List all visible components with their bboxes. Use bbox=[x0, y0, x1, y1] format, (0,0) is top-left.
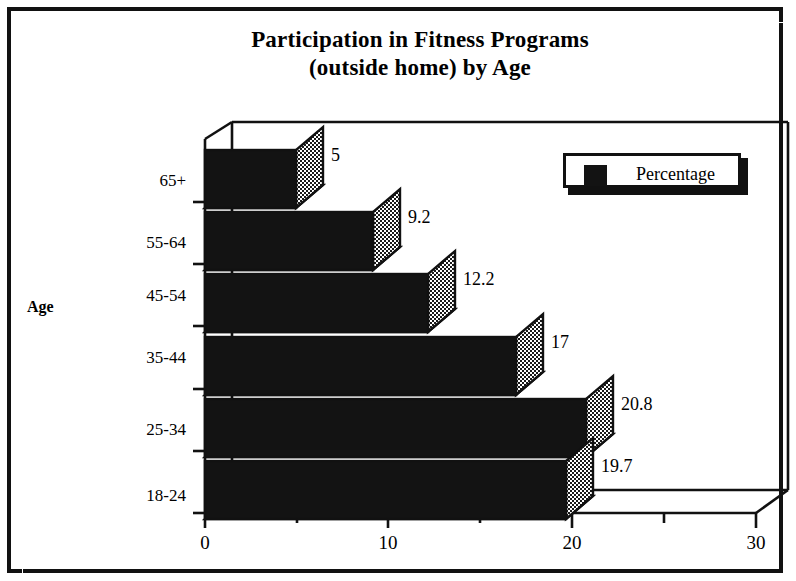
y-tick-label-55-64: 55-64 bbox=[100, 234, 186, 252]
chart-figure: Participation in Fitness Programs (outsi… bbox=[0, 0, 796, 581]
legend-swatch-percentage bbox=[584, 165, 607, 186]
x-tick-label-10: 10 bbox=[358, 533, 418, 553]
x-tick-label-30: 30 bbox=[726, 533, 786, 553]
x-tick-label-20: 20 bbox=[542, 533, 602, 553]
y-tick-label-25-34: 25-34 bbox=[100, 421, 186, 439]
x-tick-label-0: 0 bbox=[175, 533, 235, 553]
bar-65plus bbox=[205, 127, 323, 208]
bar-value-65plus: 5 bbox=[331, 146, 340, 165]
bar-value-55-64: 9.2 bbox=[408, 208, 431, 227]
bar-value-25-34: 20.8 bbox=[621, 395, 653, 414]
y-tick-label-45-54: 45-54 bbox=[100, 287, 186, 305]
y-tick-label-35-44: 35-44 bbox=[100, 349, 186, 367]
legend-label-percentage: Percentage bbox=[636, 163, 715, 185]
y-tick-label-18-24: 18-24 bbox=[100, 487, 186, 505]
y-axis-title: Age bbox=[27, 298, 54, 316]
bar-value-18-24: 19.7 bbox=[601, 457, 633, 476]
bar-value-45-54: 12.2 bbox=[463, 270, 495, 289]
y-axis-ticks bbox=[193, 202, 205, 513]
y-tick-label-65plus: 65+ bbox=[100, 172, 186, 190]
legend: Percentage bbox=[563, 153, 748, 195]
bar-value-35-44: 17 bbox=[551, 333, 569, 352]
legend-box: Percentage bbox=[563, 153, 741, 188]
